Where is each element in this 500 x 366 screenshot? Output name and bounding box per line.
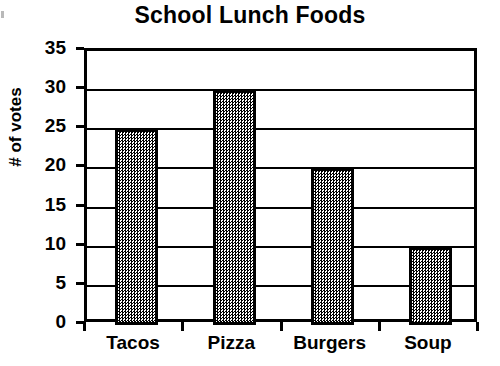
bar-chart: School Lunch Foods # of votes 0510152025… [0,0,500,366]
x-axis-tick [181,322,184,331]
bar [115,129,158,325]
y-axis-tick-label: 5 [20,273,66,292]
x-axis-tick [378,322,381,331]
y-axis-tick [76,243,84,246]
y-axis-tick [76,86,84,89]
bar [213,90,256,325]
gridline [87,89,474,91]
y-axis-tick [76,204,84,207]
y-axis-tick-label: 0 [20,312,66,331]
y-axis-tick-label: 15 [20,195,66,214]
y-axis-tick-label: 20 [20,155,66,174]
x-axis-tick [476,322,479,331]
y-axis-tick [76,282,84,285]
chart-title: School Lunch Foods [0,2,500,29]
y-axis-tick [76,47,84,50]
x-axis-category-label: Soup [379,333,477,352]
y-axis-tick [76,125,84,128]
plot-area [84,48,477,322]
bar [311,168,354,325]
x-axis-category-label: Pizza [182,333,280,352]
x-axis-tick [280,322,283,331]
bar [409,247,452,325]
y-axis-tick-label: 30 [20,77,66,96]
x-axis-category-label: Tacos [84,333,182,352]
y-axis-tick-label: 35 [20,38,66,57]
x-axis-category-label: Burgers [281,333,379,352]
y-axis-tick-label: 25 [20,116,66,135]
y-axis-tick-label: 10 [20,234,66,253]
y-axis-tick [76,164,84,167]
x-axis-tick [83,322,86,331]
